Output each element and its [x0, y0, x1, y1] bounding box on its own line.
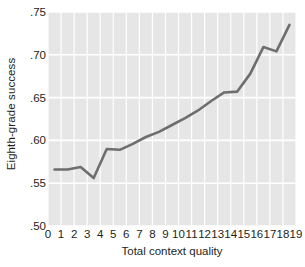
x-axis-tick: 1 [58, 228, 64, 240]
x-axis-tick: 10 [172, 228, 185, 240]
x-axis-tick: 14 [224, 228, 237, 240]
y-axis-tick: .70 [30, 49, 46, 61]
x-axis-tick: 18 [277, 228, 290, 240]
x-axis-tick: 2 [71, 228, 77, 240]
x-axis-tick: 9 [162, 228, 168, 240]
x-axis-tick: 12 [198, 228, 211, 240]
x-axis-tick: 7 [136, 228, 142, 240]
vertical-gridlines [48, 12, 296, 226]
y-axis-tick-labels: .50.55.60.65.70.75 [22, 12, 48, 226]
horizontal-gridlines [48, 12, 296, 226]
y-axis-title-label: Eighth-grade success [5, 58, 17, 171]
x-axis-tick: 8 [149, 228, 155, 240]
y-axis-title: Eighth-grade success [0, 0, 22, 228]
y-axis-tick: .55 [30, 177, 46, 189]
x-axis-tick-labels: 012345678910111213141516171819 [48, 228, 296, 244]
y-axis-tick: .50 [30, 220, 46, 232]
x-axis-tick: 17 [263, 228, 276, 240]
x-axis-tick: 16 [250, 228, 263, 240]
x-axis-tick: 6 [123, 228, 129, 240]
x-axis-title: Total context quality [48, 245, 296, 257]
plot-svg [48, 12, 296, 226]
plot-area [48, 12, 296, 226]
y-axis-tick: .75 [30, 6, 46, 18]
line-chart: Eighth-grade success .50.55.60.65.70.75 … [0, 0, 305, 267]
y-axis-tick: .60 [30, 134, 46, 146]
x-axis-tick: 15 [237, 228, 250, 240]
y-axis-tick: .65 [30, 92, 46, 104]
x-axis-tick: 3 [84, 228, 90, 240]
x-axis-tick: 0 [45, 228, 51, 240]
x-axis-tick: 13 [211, 228, 224, 240]
data-series-line [55, 25, 290, 178]
x-axis-tick: 5 [110, 228, 116, 240]
x-axis-tick: 19 [290, 228, 303, 240]
x-axis-tick: 4 [97, 228, 103, 240]
x-axis-tick: 11 [186, 228, 198, 240]
